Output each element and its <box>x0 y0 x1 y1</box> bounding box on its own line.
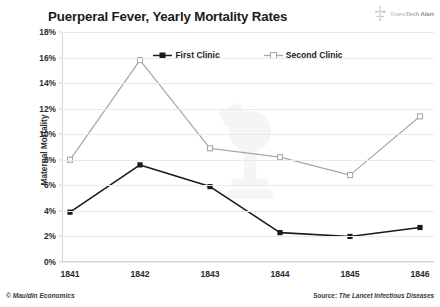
y-axis-tick-label: 14% <box>39 78 56 88</box>
gridline <box>62 236 434 237</box>
y-tick-mark <box>59 108 62 109</box>
y-tick-mark <box>59 134 62 135</box>
source-prefix: Source: <box>313 292 339 299</box>
chart-title: Puerperal Fever, Yearly Mortality Rates <box>48 9 287 24</box>
y-axis-tick-label: 8% <box>44 155 56 165</box>
x-axis-tick-label: 1845 <box>340 269 359 279</box>
series-line-second-clinic <box>70 60 420 175</box>
copyright-note: © Mauldin Economics <box>6 292 75 299</box>
y-axis-tick-label: 18% <box>39 27 56 37</box>
y-axis-tick-label: 6% <box>44 180 56 190</box>
data-point[interactable] <box>417 225 422 230</box>
data-point[interactable] <box>418 114 423 119</box>
data-point[interactable] <box>208 146 213 151</box>
gridline <box>62 83 434 84</box>
gridline <box>62 58 434 59</box>
y-axis-tick-label: 16% <box>39 53 56 63</box>
gridline <box>62 134 434 135</box>
y-axis-tick-label: 12% <box>39 104 56 114</box>
chart-root: Puerperal Fever, Yearly Mortality Rates … <box>0 0 440 307</box>
x-axis-tick-label: 1842 <box>130 269 149 279</box>
gridline <box>62 160 434 161</box>
data-point[interactable] <box>137 162 142 167</box>
gridline <box>62 185 434 186</box>
y-axis-title: Maternal Mortality <box>39 115 49 186</box>
series-line-first-clinic <box>70 165 420 237</box>
source-note: Source: The Lancet Infectious Diseases <box>313 292 434 299</box>
data-point[interactable] <box>277 230 282 235</box>
x-axis-tick-label: 1846 <box>410 269 429 279</box>
y-axis-tick-label: 10% <box>39 129 56 139</box>
transtech-logo-icon <box>374 6 387 21</box>
y-tick-mark <box>59 32 62 33</box>
brand-text-part1: Trans <box>390 10 406 17</box>
data-point[interactable] <box>348 173 353 178</box>
gridline <box>62 109 434 110</box>
source-journal: The Lancet Infectious Diseases <box>339 292 434 299</box>
y-tick-mark <box>59 210 62 211</box>
y-axis-tick-label: 2% <box>44 231 56 241</box>
y-tick-mark <box>59 185 62 186</box>
brand-text-part3: Alert <box>421 10 434 17</box>
y-tick-mark <box>59 159 62 160</box>
x-axis-tick-label: 1841 <box>60 269 79 279</box>
x-axis-tick-label: 1843 <box>200 269 219 279</box>
gridline <box>62 211 434 212</box>
brand-text-part2: Tech <box>406 10 419 17</box>
plot-area: First Clinic Second Clinic 0%2%4%6%8%10%… <box>62 32 434 262</box>
x-axis-tick-label: 1844 <box>270 269 289 279</box>
y-axis-tick-label: 4% <box>44 206 56 216</box>
y-tick-mark <box>59 262 62 263</box>
y-tick-mark <box>59 83 62 84</box>
y-tick-mark <box>59 236 62 237</box>
brand-text: TransTech Alert <box>390 10 434 17</box>
gridline <box>62 32 434 33</box>
y-tick-mark <box>59 57 62 58</box>
brand-logo: TransTech Alert <box>374 6 434 21</box>
y-axis-tick-label: 0% <box>44 257 56 267</box>
gridline <box>62 262 434 263</box>
